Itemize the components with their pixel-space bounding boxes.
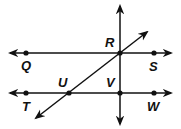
- point-s: [151, 50, 156, 55]
- geometry-diagram: Q R S T U V W: [0, 0, 181, 129]
- point-v: [117, 90, 122, 95]
- diagonal-line: [36, 32, 147, 118]
- label-t: T: [22, 99, 31, 114]
- label-q: Q: [21, 58, 31, 73]
- label-s: S: [149, 59, 158, 74]
- point-t: [23, 90, 28, 95]
- label-r: R: [105, 35, 115, 50]
- label-w: W: [147, 99, 161, 114]
- label-u: U: [58, 75, 68, 90]
- point-u: [66, 90, 71, 95]
- point-w: [151, 90, 156, 95]
- label-v: V: [106, 75, 116, 90]
- point-r: [117, 50, 122, 55]
- point-q: [23, 50, 28, 55]
